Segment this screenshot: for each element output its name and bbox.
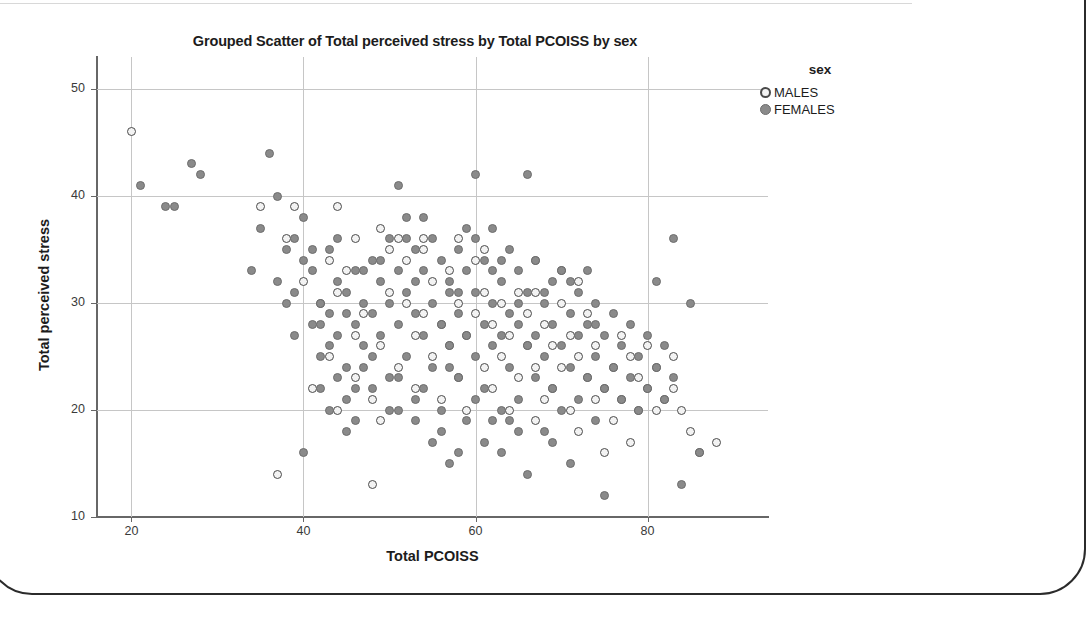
data-point [600, 448, 609, 457]
data-point [626, 438, 635, 447]
data-point [523, 170, 532, 179]
data-point [376, 331, 385, 340]
data-point [445, 288, 454, 297]
data-point [626, 373, 635, 382]
gridline-vertical [131, 57, 132, 517]
data-point [686, 299, 695, 308]
data-point [574, 277, 583, 286]
data-point [411, 395, 420, 404]
data-point [712, 438, 721, 447]
data-point [557, 406, 566, 415]
data-point [514, 395, 523, 404]
legend-entries: MALESFEMALES [752, 84, 902, 118]
data-point [591, 341, 600, 350]
data-point [265, 149, 274, 158]
data-point [454, 373, 463, 382]
data-point [376, 224, 385, 233]
data-point [471, 170, 480, 179]
legend-item-males[interactable]: MALES [760, 84, 902, 101]
data-point [531, 363, 540, 372]
data-point [299, 256, 308, 265]
data-point [497, 256, 506, 265]
data-point [454, 309, 463, 318]
data-point [402, 256, 411, 265]
data-point [359, 309, 368, 318]
data-point [497, 406, 506, 415]
data-point [428, 277, 437, 286]
y-axis-tick [91, 410, 97, 411]
data-point [325, 309, 334, 318]
data-point [557, 266, 566, 275]
data-point [273, 192, 282, 201]
data-point [557, 299, 566, 308]
data-point [566, 309, 575, 318]
data-point [566, 406, 575, 415]
data-point [454, 245, 463, 254]
data-point [497, 299, 506, 308]
data-point [290, 202, 299, 211]
data-point [583, 373, 592, 382]
data-point [591, 320, 600, 329]
data-point [351, 384, 360, 393]
data-point [273, 470, 282, 479]
data-point [548, 320, 557, 329]
data-point [359, 299, 368, 308]
data-point [256, 224, 265, 233]
data-point [325, 341, 334, 350]
data-point [523, 309, 532, 318]
data-point [531, 256, 540, 265]
data-point [471, 352, 480, 361]
data-point [437, 256, 446, 265]
data-point [505, 416, 514, 425]
gridline-vertical [648, 57, 649, 517]
data-point [316, 352, 325, 361]
data-point [376, 277, 385, 286]
data-point [419, 331, 428, 340]
data-point [574, 288, 583, 297]
data-point [523, 341, 532, 350]
data-point [531, 331, 540, 340]
y-axis-tick [91, 196, 97, 197]
data-point [669, 384, 678, 393]
data-point [368, 384, 377, 393]
data-point [583, 309, 592, 318]
data-point [531, 288, 540, 297]
data-point [480, 384, 489, 393]
data-point [574, 331, 583, 340]
legend-item-females[interactable]: FEMALES [760, 101, 902, 118]
data-point [488, 341, 497, 350]
data-point [462, 266, 471, 275]
chart-title: Grouped Scatter of Total perceived stres… [0, 33, 830, 49]
data-point [385, 406, 394, 415]
data-point [196, 170, 205, 179]
data-point [368, 395, 377, 404]
x-axis-tick-label: 60 [454, 524, 498, 538]
data-point [591, 395, 600, 404]
data-point [351, 416, 360, 425]
data-point [342, 309, 351, 318]
data-point [514, 299, 523, 308]
data-point [342, 395, 351, 404]
data-point [617, 331, 626, 340]
data-point [626, 320, 635, 329]
data-point [325, 406, 334, 415]
data-point [351, 331, 360, 340]
data-point [600, 331, 609, 340]
data-point [548, 438, 557, 447]
y-axis-tick-label: 10 [47, 509, 85, 523]
data-point [368, 309, 377, 318]
data-point [505, 363, 514, 372]
data-point [445, 459, 454, 468]
data-point [316, 384, 325, 393]
data-point [488, 266, 497, 275]
data-point [574, 427, 583, 436]
data-point [359, 266, 368, 275]
x-axis-label: Total PCOISS [97, 548, 768, 564]
data-point [299, 277, 308, 286]
data-point [290, 234, 299, 243]
gridline-vertical [476, 57, 477, 517]
data-point [488, 384, 497, 393]
data-point [290, 288, 299, 297]
data-point [462, 331, 471, 340]
